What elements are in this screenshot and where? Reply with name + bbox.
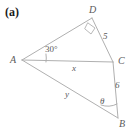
length-label-DC: 5 xyxy=(103,32,108,41)
figure-drawing xyxy=(0,0,134,134)
part-label: (a) xyxy=(5,6,19,18)
length-label-AB: y xyxy=(65,90,69,99)
segment-CB xyxy=(113,62,118,118)
length-label-AC: x xyxy=(72,64,76,73)
geometry-figure: (a) A D C B 30° 5 x 6 y θ xyxy=(0,0,134,134)
vertex-label-D: D xyxy=(89,5,96,15)
segment-AC xyxy=(22,60,113,62)
vertex-label-B: B xyxy=(119,119,125,129)
segment-AB xyxy=(22,60,118,118)
angle-label-theta-B: θ xyxy=(100,97,104,106)
vertex-label-C: C xyxy=(118,56,125,66)
vertex-label-A: A xyxy=(10,55,16,65)
length-label-CB: 6 xyxy=(115,81,120,90)
angle-label-A: 30° xyxy=(45,45,58,54)
right-angle-marker-D xyxy=(85,23,95,34)
